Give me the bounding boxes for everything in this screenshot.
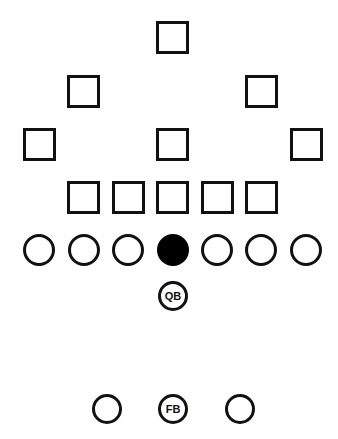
defender-square [67,181,100,214]
defender-square [23,128,56,161]
offensive-lineman-circle [245,234,277,266]
offensive-lineman-circle [68,234,100,266]
center-filled-circle [157,234,189,266]
defender-square [156,21,189,54]
offensive-lineman-circle [23,234,55,266]
quarterback-circle: QB [158,281,188,311]
qb-label: QB [165,291,182,302]
offensive-lineman-circle [290,234,322,266]
defender-square [112,181,145,214]
fullback-circle: FB [158,394,188,424]
halfback-left-circle [92,394,122,424]
defender-square [67,75,100,108]
defender-square [156,181,189,214]
defender-square [156,128,189,161]
fb-label: FB [166,404,181,415]
defender-square [290,128,323,161]
defender-square [245,75,278,108]
offensive-lineman-circle [201,234,233,266]
offensive-lineman-circle [112,234,144,266]
defender-square [245,181,278,214]
formation-diagram: QB FB [0,0,338,439]
defender-square [201,181,234,214]
halfback-right-circle [225,394,255,424]
